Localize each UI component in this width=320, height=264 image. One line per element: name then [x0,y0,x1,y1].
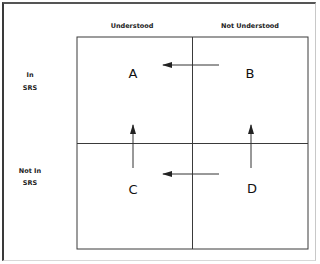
quadrant-label-a: A [129,66,138,81]
row-header-in-line2: SRS [23,84,38,92]
row-header-not-in-line2: SRS [23,179,38,187]
row-header-in-line1: In [26,71,33,79]
quadrant-grid [77,37,308,249]
quadrant-diagram: Understood Not Understood In SRS Not In … [0,0,320,264]
quadrant-label-b: B [246,66,255,81]
quadrant-label-c: C [128,182,137,197]
quadrant-label-d: D [247,181,257,196]
column-header-not-understood: Not Understood [221,22,279,30]
row-header-not-in-line1: Not In [19,167,42,175]
column-header-understood: Understood [111,22,154,30]
